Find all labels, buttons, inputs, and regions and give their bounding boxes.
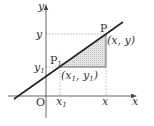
x-axis-label: x — [132, 95, 139, 108]
tick-y1: y1 — [33, 61, 45, 75]
y-axis-arrow-icon — [44, 4, 48, 10]
coordinate-diagram: y x O y y1 x1 x P (x, y) P1 (x1, y1) — [0, 0, 154, 126]
tick-x: x — [102, 95, 109, 108]
point-p-coords: (x, y) — [107, 34, 135, 47]
tick-x1: x1 — [56, 95, 67, 109]
y-axis-label: y — [37, 0, 45, 13]
point-p1-coords: (x1, y1) — [61, 69, 98, 83]
point-p1-label: P1 — [50, 54, 62, 68]
tick-y: y — [35, 28, 43, 41]
origin-label: O — [36, 96, 45, 109]
